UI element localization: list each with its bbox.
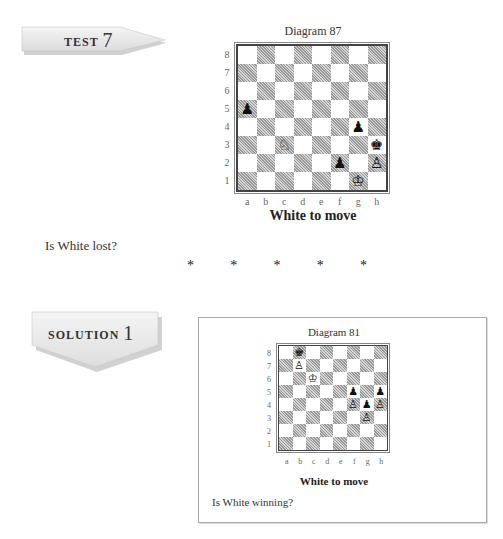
square-e8 xyxy=(333,346,347,359)
square-h8 xyxy=(368,46,387,64)
square-b2 xyxy=(293,424,307,437)
square-g4: ♟ xyxy=(349,118,368,136)
file-label: g xyxy=(361,457,375,466)
white-pawn-icon: ♙ xyxy=(362,412,372,423)
file-label: e xyxy=(312,196,331,207)
square-a8 xyxy=(238,46,257,64)
square-b3 xyxy=(293,411,307,424)
square-g6 xyxy=(360,372,374,385)
square-b5 xyxy=(293,385,307,398)
diagram1-title: Diagram 87 xyxy=(236,24,390,39)
star-1: * xyxy=(187,258,194,274)
square-b8 xyxy=(257,46,276,64)
square-g8 xyxy=(360,346,374,359)
square-e2 xyxy=(333,424,347,437)
cut-off-text-line xyxy=(20,532,220,539)
square-e8 xyxy=(312,46,331,64)
star-2: * xyxy=(230,258,237,274)
square-d4 xyxy=(320,398,334,411)
question2-text: Is White winning? xyxy=(212,496,293,508)
square-c5 xyxy=(306,385,320,398)
black-pawn-icon: ♟ xyxy=(362,399,372,410)
square-e5 xyxy=(333,385,347,398)
file-label: f xyxy=(331,196,350,207)
question1-text: Is White lost? xyxy=(45,238,117,254)
square-g3: ♙ xyxy=(360,411,374,424)
square-c7 xyxy=(306,359,320,372)
rank-label: 5 xyxy=(222,103,232,114)
square-d6 xyxy=(294,82,313,100)
section-separator: * * * * * xyxy=(187,258,367,274)
square-c8 xyxy=(306,346,320,359)
square-g2 xyxy=(360,424,374,437)
rank-label: 8 xyxy=(264,349,274,358)
square-h4: ♙ xyxy=(374,398,388,411)
square-d3 xyxy=(320,411,334,424)
square-c1 xyxy=(306,437,320,450)
square-d7 xyxy=(320,359,334,372)
square-b1 xyxy=(293,437,307,450)
square-f1 xyxy=(347,437,361,450)
file-label: h xyxy=(368,196,387,207)
square-a1 xyxy=(238,172,257,190)
square-g1: ♔ xyxy=(349,172,368,190)
square-f4: ♙ xyxy=(347,398,361,411)
square-f8 xyxy=(347,346,361,359)
file-label: f xyxy=(348,457,362,466)
square-f1 xyxy=(331,172,350,190)
square-e7 xyxy=(333,359,347,372)
black-pawn-icon: ♟ xyxy=(333,156,346,171)
square-h2 xyxy=(374,424,388,437)
square-h3 xyxy=(374,411,388,424)
square-f4 xyxy=(331,118,350,136)
black-pawn-icon: ♟ xyxy=(375,386,385,397)
square-d4 xyxy=(294,118,313,136)
white-knight-icon: ♘ xyxy=(278,138,291,153)
square-b6 xyxy=(293,372,307,385)
square-d7 xyxy=(294,64,313,82)
black-pawn-icon: ♟ xyxy=(348,386,358,397)
white-pawn-icon: ♙ xyxy=(370,156,383,171)
file-label: d xyxy=(294,196,313,207)
file-label: c xyxy=(307,457,321,466)
square-e3 xyxy=(312,136,331,154)
square-f5: ♟ xyxy=(347,385,361,398)
square-d5 xyxy=(294,100,313,118)
square-a8 xyxy=(279,346,293,359)
diagram2-title: Diagram 81 xyxy=(278,326,390,338)
square-a3 xyxy=(279,411,293,424)
square-b6 xyxy=(257,82,276,100)
square-c4 xyxy=(306,398,320,411)
square-d2 xyxy=(294,154,313,172)
square-h4 xyxy=(368,118,387,136)
square-e5 xyxy=(312,100,331,118)
square-a4 xyxy=(279,398,293,411)
rank-label: 2 xyxy=(264,427,274,436)
white-pawn-icon: ♙ xyxy=(348,399,358,410)
square-g7 xyxy=(360,359,374,372)
square-d8 xyxy=(320,346,334,359)
square-g5 xyxy=(349,100,368,118)
rank-label: 1 xyxy=(264,440,274,449)
square-g4: ♟ xyxy=(360,398,374,411)
square-b4 xyxy=(293,398,307,411)
black-king-icon: ♚ xyxy=(294,347,304,358)
square-c4 xyxy=(275,118,294,136)
square-a5: ♟ xyxy=(238,100,257,118)
square-e2 xyxy=(312,154,331,172)
square-e7 xyxy=(312,64,331,82)
square-d2 xyxy=(320,424,334,437)
file-label: h xyxy=(375,457,389,466)
square-a3 xyxy=(238,136,257,154)
square-h3: ♚ xyxy=(368,136,387,154)
diagram1-caption: White to move xyxy=(236,208,390,224)
square-a7 xyxy=(238,64,257,82)
black-pawn-icon: ♟ xyxy=(352,120,365,135)
square-c5 xyxy=(275,100,294,118)
file-label: b xyxy=(294,457,308,466)
rank-label: 3 xyxy=(264,414,274,423)
square-f6 xyxy=(347,372,361,385)
square-a6 xyxy=(279,372,293,385)
rank-label: 6 xyxy=(264,375,274,384)
file-label: b xyxy=(257,196,276,207)
